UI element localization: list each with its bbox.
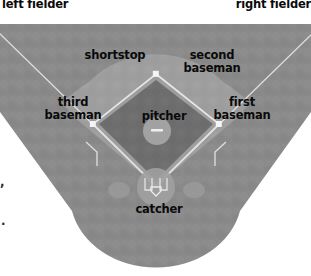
third-base-marker	[90, 121, 96, 127]
field-surface	[0, 0, 311, 276]
on-deck-circle-left	[108, 182, 130, 198]
on-deck-circle-right	[183, 182, 205, 198]
first-base-marker	[216, 121, 222, 127]
baseball-diagram-canvas: left fielder right fielder shortstop sec…	[0, 0, 311, 276]
second-base-marker	[153, 71, 159, 77]
baseball-field-graphic	[0, 0, 311, 276]
pitchers-rubber	[151, 129, 163, 132]
